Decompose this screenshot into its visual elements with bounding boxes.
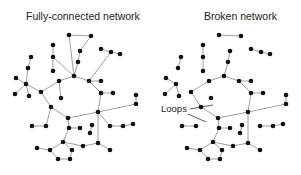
network-edge [41,81,59,92]
network-node [26,66,31,71]
network-node [49,105,54,110]
network-node [68,157,73,162]
network-node [174,82,179,87]
network-node [228,126,233,131]
network-node [249,79,254,84]
network-node [176,66,181,71]
network-node [131,122,136,127]
network-node [78,126,83,131]
network-node [249,47,254,52]
network-edge [51,107,68,118]
network-node [185,146,190,151]
network-edge [69,35,91,36]
network-node [259,50,264,55]
network-node [88,131,93,136]
network-node [268,52,273,57]
network-edge [201,107,218,118]
network-node [108,124,113,129]
network-edge [98,93,101,112]
network-edge [98,104,136,112]
network-node [27,94,32,99]
network-edge [26,84,41,92]
network-node [134,102,139,107]
network-node [179,55,184,60]
network-edge [219,35,241,36]
network-node [216,116,221,121]
network-node [29,55,34,60]
network-node [284,102,289,107]
network-node [35,146,40,151]
network-edge [191,92,201,107]
network-node [61,140,66,145]
network-node [217,126,222,131]
network-node [239,34,244,39]
network-node [220,148,225,153]
network-node [218,157,223,162]
network-node [207,79,212,84]
network-node [209,96,214,101]
network-node [228,49,233,54]
network-node [194,124,199,129]
network-edge [59,76,74,81]
network-node [258,148,263,153]
network-node [271,124,276,129]
network-node [51,69,56,74]
network-node [238,131,243,136]
network-node [13,92,18,97]
network-node [90,123,95,128]
network-edge [248,104,286,112]
network-edge [239,81,251,93]
network-node [240,123,245,128]
network-edge [46,107,51,126]
network-node [180,124,185,129]
network-node [99,91,104,96]
network-node [164,76,169,81]
network-node [121,124,126,129]
network-node [201,43,206,48]
network-node [70,148,75,153]
network-node [134,93,139,98]
network-node [211,140,216,145]
network-node [217,33,222,38]
network-node [59,96,64,101]
network-diagram [0,0,301,175]
network-node [222,74,227,79]
network-node [51,43,56,48]
network-node [44,124,49,129]
network-node [76,60,81,65]
network-node [51,55,56,60]
network-node [96,110,101,115]
network-edge [41,92,51,107]
network-edge [218,112,248,118]
network-edge [89,81,101,93]
network-edge [26,68,28,84]
network-node [246,110,251,115]
network-edge [59,81,61,98]
network-node [201,69,206,74]
network-edge [213,142,233,146]
network-node [14,76,19,81]
network-edge [68,112,98,118]
network-node [237,79,242,84]
network-edge [224,76,239,81]
network-node [48,148,53,153]
network-edge [53,57,74,76]
network-node [56,157,61,162]
network-node [261,91,266,96]
network-node [78,49,83,54]
network-node [189,90,194,95]
network-node [201,55,206,60]
network-node [284,93,289,98]
network-edge [191,81,209,92]
fully-connected-network-nodes [13,33,139,162]
network-node [96,141,101,146]
network-edge [69,35,74,76]
network-node [246,141,251,146]
network-node [231,144,236,149]
network-node [66,116,71,121]
network-node [39,90,44,95]
network-edge [209,76,224,81]
network-edge [80,36,91,51]
network-node [67,33,72,38]
network-node [99,47,104,52]
